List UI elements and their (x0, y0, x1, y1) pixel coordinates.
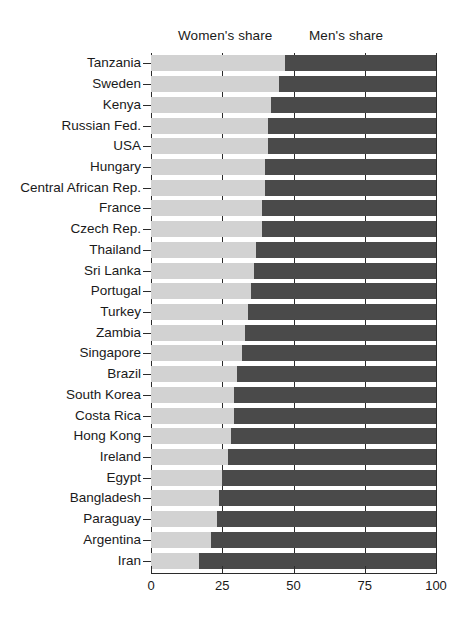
category-tick (143, 126, 151, 127)
bar-segment-men (217, 511, 436, 527)
category-tick (143, 291, 151, 292)
category-tick (143, 146, 151, 147)
bar-row (151, 304, 436, 320)
bar-segment-men (228, 449, 436, 465)
bar-row (151, 76, 436, 92)
bar-segment-men (219, 490, 436, 506)
category-tick (143, 416, 151, 417)
bar-row (151, 345, 436, 361)
bar-segment-men (251, 283, 436, 299)
category-tick (143, 188, 151, 189)
bar-row (151, 138, 436, 154)
bar-segment-women (151, 138, 268, 154)
bar-row (151, 408, 436, 424)
category-tick (143, 478, 151, 479)
chart-legend: Women's share Men's share (0, 28, 457, 48)
bar-row (151, 449, 436, 465)
bar-segment-women (151, 76, 279, 92)
gridline (436, 53, 437, 571)
bar-segment-men (248, 304, 436, 320)
bar-segment-women (151, 470, 222, 486)
bar-row (151, 118, 436, 134)
category-tick (143, 271, 151, 272)
bar-segment-women (151, 304, 248, 320)
category-tick (143, 395, 151, 396)
bar-row (151, 470, 436, 486)
category-tick (143, 312, 151, 313)
category-tick (143, 457, 151, 458)
bar-segment-women (151, 159, 265, 175)
bar-segment-men (237, 366, 437, 382)
bar-row (151, 97, 436, 113)
bar-segment-men (268, 138, 436, 154)
bar-row (151, 511, 436, 527)
bar-segment-men (265, 159, 436, 175)
bar-segment-women (151, 532, 211, 548)
category-tick (143, 540, 151, 541)
bar-segment-women (151, 55, 285, 71)
legend-label-men: Men's share (309, 28, 383, 43)
bar-segment-women (151, 200, 262, 216)
category-tick (143, 84, 151, 85)
plot-area (151, 53, 436, 571)
x-axis-tick-label: 75 (358, 578, 372, 593)
x-axis-tick (294, 566, 295, 574)
bar-segment-men (245, 325, 436, 341)
bar-segment-women (151, 345, 242, 361)
category-tick (143, 229, 151, 230)
x-axis-tick (151, 566, 152, 574)
bar-segment-women (151, 118, 268, 134)
bar-row (151, 263, 436, 279)
bar-row (151, 532, 436, 548)
bar-row (151, 180, 436, 196)
category-tick (143, 208, 151, 209)
bar-segment-women (151, 428, 231, 444)
bar-segment-women (151, 449, 228, 465)
bar-row (151, 490, 436, 506)
legend-label-women: Women's share (178, 28, 272, 43)
bar-segment-women (151, 325, 245, 341)
bar-segment-men (262, 200, 436, 216)
category-tick (143, 63, 151, 64)
bar-row (151, 200, 436, 216)
bar-row (151, 428, 436, 444)
bar-row (151, 387, 436, 403)
bar-segment-women (151, 490, 219, 506)
category-tick (143, 250, 151, 251)
bar-segment-men (285, 55, 436, 71)
category-tick (143, 498, 151, 499)
bar-segment-men (262, 221, 436, 237)
bar-segment-women (151, 283, 251, 299)
bar-segment-women (151, 387, 234, 403)
bar-segment-men (199, 553, 436, 569)
stacked-bar-chart: Women's share Men's share TanzaniaSweden… (0, 0, 457, 641)
bar-segment-men (265, 180, 436, 196)
bar-segment-women (151, 408, 234, 424)
bar-segment-women (151, 263, 254, 279)
bar-segment-men (222, 470, 436, 486)
bar-segment-men (234, 408, 436, 424)
bar-segment-men (242, 345, 436, 361)
bar-segment-women (151, 180, 265, 196)
bar-segment-women (151, 553, 199, 569)
category-tick (143, 167, 151, 168)
bar-row (151, 221, 436, 237)
category-tick (143, 519, 151, 520)
bar-segment-men (231, 428, 436, 444)
x-axis-tick-label: 50 (286, 578, 300, 593)
bar-segment-men (268, 118, 436, 134)
bar-segment-women (151, 221, 262, 237)
x-axis-tick (436, 566, 437, 574)
category-tick (143, 353, 151, 354)
bar-segment-men (256, 242, 436, 258)
category-tick (143, 561, 151, 562)
bar-segment-women (151, 97, 271, 113)
bar-segment-men (271, 97, 436, 113)
x-axis-tick-label: 0 (147, 578, 154, 593)
x-axis-tick (365, 566, 366, 574)
bar-row (151, 366, 436, 382)
category-tick (143, 333, 151, 334)
x-axis-tick-label: 100 (425, 578, 447, 593)
category-tick (143, 105, 151, 106)
bar-segment-men (254, 263, 436, 279)
